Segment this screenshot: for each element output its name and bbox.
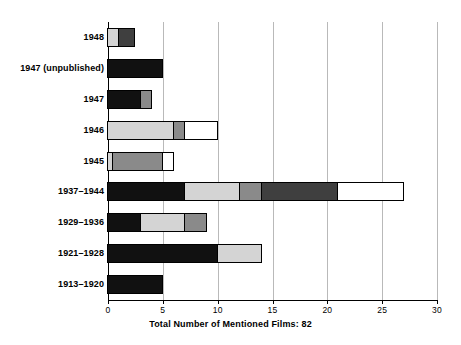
bar-segment-dark_gray (118, 28, 135, 47)
tick-mark-10 (218, 300, 219, 304)
bar-row (108, 213, 437, 232)
category-label: 1948 (0, 28, 104, 47)
bar-segment-white (184, 121, 218, 140)
bar-segment-medium_gray (184, 213, 207, 232)
chart-caption: Total Number of Mentioned Films: 82 (0, 319, 461, 329)
y-axis-category-labels: 19481947 (unpublished)1947194619451937–1… (0, 0, 104, 345)
bar-row (108, 59, 437, 78)
bar-segment-black (107, 244, 218, 263)
tick-mark-5 (163, 300, 164, 304)
gridline-30 (437, 22, 438, 300)
bar-segment-white (337, 182, 404, 201)
category-label: 1945 (0, 152, 104, 171)
bar-segment-medium_gray (239, 182, 262, 201)
bar-segment-black (107, 59, 163, 78)
tick-mark-15 (273, 300, 274, 304)
bar-segment-medium_gray (140, 90, 152, 109)
bars-container (108, 22, 437, 300)
x-tick-label: 15 (258, 305, 288, 316)
x-tick-label: 25 (367, 305, 397, 316)
bar-segment-light_gray (107, 121, 174, 140)
bar-segment-white (162, 152, 174, 171)
category-label: 1947 (0, 90, 104, 109)
bar-segment-black (107, 213, 141, 232)
bar-segment-light_gray (140, 213, 185, 232)
tick-mark-0 (108, 300, 109, 304)
tick-mark-25 (382, 300, 383, 304)
category-label: 1947 (unpublished) (0, 59, 104, 78)
bar-row (108, 28, 437, 47)
tick-mark-20 (327, 300, 328, 304)
x-tick-label: 30 (422, 305, 452, 316)
x-tick-label: 20 (312, 305, 342, 316)
bar-row (108, 90, 437, 109)
bar-row (108, 152, 437, 171)
x-tick-label: 5 (148, 305, 178, 316)
bar-segment-light_gray (184, 182, 240, 201)
bar-segment-black (107, 275, 163, 294)
tick-mark-30 (437, 300, 438, 304)
bar-segment-medium_gray (112, 152, 162, 171)
bar-segment-dark_gray (261, 182, 339, 201)
x-tick-label: 10 (203, 305, 233, 316)
bar-chart: 051015202530 19481947 (unpublished)19471… (0, 0, 461, 345)
bar-segment-black (107, 90, 141, 109)
category-label: 1946 (0, 121, 104, 140)
category-label: 1929–1936 (0, 213, 104, 232)
bar-segment-light_gray (217, 244, 262, 263)
category-label: 1913–1920 (0, 275, 104, 294)
bar-segment-black (107, 182, 185, 201)
category-label: 1937–1944 (0, 182, 104, 201)
bar-row (108, 275, 437, 294)
bar-row (108, 121, 437, 140)
category-label: 1921–1928 (0, 244, 104, 263)
bar-row (108, 244, 437, 263)
bar-row (108, 182, 437, 201)
